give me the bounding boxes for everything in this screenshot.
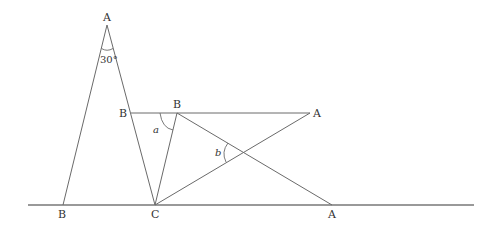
label-apex-angle: 30°	[100, 54, 118, 65]
angle-b-arc	[224, 143, 228, 162]
segment-apexA-C	[107, 25, 155, 205]
segment-midB-bottomA	[177, 113, 332, 205]
label-mid-B: B	[173, 98, 181, 111]
label-bottom-C: C	[151, 208, 159, 221]
geometry-diagram: A 30° B B A a b B C A	[0, 0, 501, 231]
label-apex-A: A	[102, 11, 112, 24]
segment-apexA-bottomB	[63, 25, 107, 205]
label-right-A: A	[312, 107, 322, 120]
apex-angle-arc	[102, 49, 114, 51]
segment-C-rightA	[155, 113, 310, 205]
label-angle-a: a	[153, 124, 159, 135]
angle-a-arc	[160, 113, 173, 130]
label-bottom-A: A	[327, 208, 337, 221]
label-bottom-B: B	[58, 208, 66, 221]
label-left-B: B	[119, 107, 127, 120]
label-angle-b: b	[215, 147, 221, 158]
